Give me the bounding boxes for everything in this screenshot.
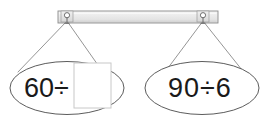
left-hook-icon [61,11,73,24]
right-hook-ring [200,13,205,18]
right-sign-left-string [168,21,203,68]
left-hook-ring [64,13,69,18]
right-sign-expression: 90÷6 [168,75,232,102]
hanging-rail [58,11,218,23]
left-sign-expression: 60÷ [24,75,69,102]
figure-canvas: 60÷ 90÷6 [0,0,270,123]
hanging-signs-illustration [0,0,270,123]
right-hook-icon [197,11,209,24]
left-sign-right-string [67,21,100,68]
answer-box-input[interactable] [74,63,111,108]
